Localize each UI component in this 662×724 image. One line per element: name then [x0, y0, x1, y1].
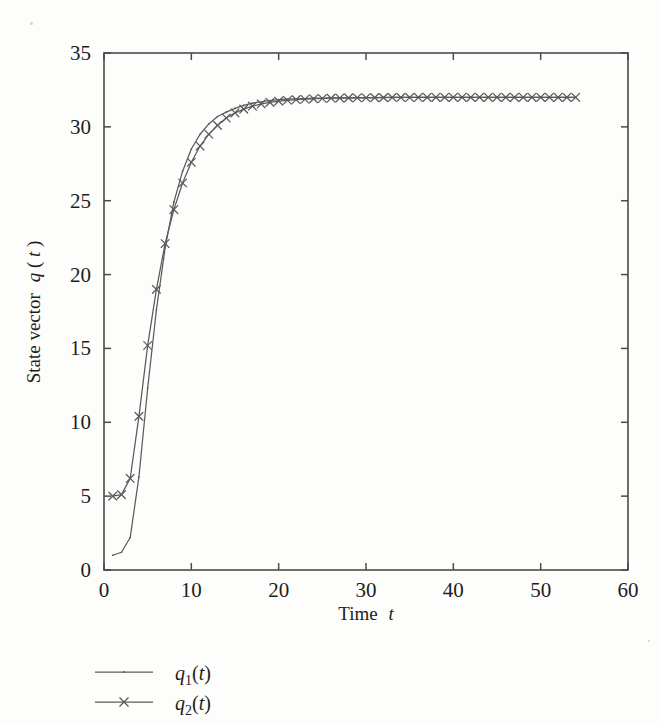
marker-x — [214, 121, 222, 129]
x-tick-label: 0 — [99, 578, 110, 602]
marker-x — [170, 206, 178, 214]
x-tick-label: 10 — [181, 578, 202, 602]
series-point — [260, 101, 262, 103]
axis-ticks — [104, 53, 628, 570]
y-tick-label: 0 — [81, 558, 92, 582]
y-axis-title-paren-open: ( — [23, 262, 45, 268]
series-point — [234, 108, 236, 110]
scan-speck — [30, 22, 33, 25]
legend-var: q — [175, 692, 185, 715]
y-axis-title-variable2: t — [23, 251, 44, 257]
series-point — [243, 105, 245, 107]
y-axis-title-prefix: State vector — [23, 292, 44, 383]
line-chart: 010203040506005101520253035 Time t State… — [0, 0, 662, 724]
legend-subscript: 2 — [185, 703, 192, 718]
x-axis-title-variable: t — [388, 603, 394, 624]
data-series-layer — [109, 93, 580, 556]
legend-item-2: q2(t) — [95, 692, 211, 718]
marker-x — [196, 142, 204, 150]
y-axis-title-variable: q — [23, 272, 44, 282]
svg-text:Time t: Time t — [338, 603, 394, 624]
x-tick-label: 50 — [530, 578, 551, 602]
legend-label: q2(t) — [175, 692, 211, 718]
series-point — [147, 387, 149, 389]
scan-speck — [648, 640, 650, 642]
legend-arg-close: ) — [204, 662, 211, 685]
legend-subscript: 1 — [185, 673, 192, 688]
series-point — [252, 102, 254, 104]
axes-border — [104, 53, 628, 570]
series-1 — [112, 96, 577, 556]
series-point — [225, 111, 227, 113]
series-point — [208, 123, 210, 125]
marker-x — [187, 158, 195, 166]
y-tick-label: 5 — [81, 484, 92, 508]
marker-x — [205, 130, 213, 138]
x-axis-title-prefix: Time — [338, 603, 377, 624]
series-point — [182, 170, 184, 172]
plot-frame — [104, 53, 628, 570]
series-point — [112, 554, 114, 556]
y-axis-title: State vector q ( t ) — [23, 241, 45, 384]
marker-x — [240, 105, 248, 113]
legend-point-sample — [123, 671, 125, 673]
series-point — [138, 476, 140, 478]
legend-item-1: q1(t) — [95, 662, 211, 688]
series-point — [173, 201, 175, 203]
x-axis-title: Time t — [338, 603, 394, 624]
series-point — [199, 133, 201, 135]
x-tick-label: 30 — [356, 578, 377, 602]
marker-x — [222, 114, 230, 122]
figure-container: 010203040506005101520253035 Time t State… — [0, 0, 662, 724]
y-tick-label: 20 — [70, 263, 91, 287]
y-tick-label: 25 — [70, 189, 91, 213]
chart-legend: q1(t)q2(t) — [95, 662, 211, 718]
legend-arg-close: ) — [204, 692, 211, 715]
legend-var: q — [175, 662, 185, 685]
x-tick-label: 40 — [443, 578, 464, 602]
series-point — [129, 537, 131, 539]
y-axis-title-paren-close: ) — [23, 241, 45, 247]
series-point — [190, 148, 192, 150]
y-tick-label: 30 — [70, 115, 91, 139]
series-point — [121, 551, 123, 553]
x-tick-label: 60 — [618, 578, 639, 602]
series-2 — [109, 93, 580, 500]
y-tick-label: 10 — [70, 410, 91, 434]
svg-text:State vector q: State vector q ( t ) — [23, 241, 45, 384]
series-line — [113, 97, 576, 496]
legend-label: q1(t) — [175, 662, 211, 688]
series-point — [217, 116, 219, 118]
y-tick-label: 15 — [70, 336, 91, 360]
y-tick-label: 35 — [70, 41, 91, 65]
series-point — [156, 309, 158, 311]
series-line — [113, 97, 576, 555]
marker-x — [231, 109, 239, 117]
x-tick-label: 20 — [268, 578, 289, 602]
